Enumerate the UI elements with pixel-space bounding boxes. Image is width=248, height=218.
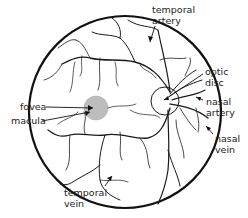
label-fovea: fovea xyxy=(20,101,46,112)
optic-disc-outline xyxy=(151,87,179,115)
blood-vessels xyxy=(44,18,208,204)
label-macula: macula xyxy=(11,115,46,126)
label-nasal-artery: nasal artery xyxy=(206,96,235,118)
label-nasal-vein: nasal vein xyxy=(215,133,240,155)
fundus-outline xyxy=(29,16,221,208)
label-optic-disc: optic disc xyxy=(205,66,228,88)
label-temporal-vein: temporal vein xyxy=(64,187,107,209)
label-temporal-artery: temporal artery xyxy=(152,4,195,26)
